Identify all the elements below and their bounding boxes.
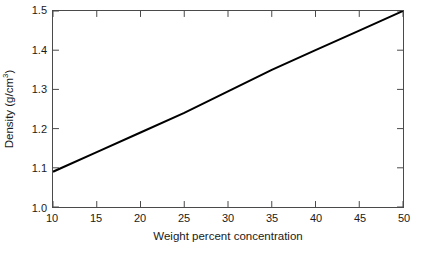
plot-canvas — [53, 11, 403, 207]
data-series-line — [53, 11, 403, 172]
y-tick-label: 1.1 — [32, 163, 47, 174]
x-tick-label: 30 — [222, 213, 234, 224]
x-tick-label: 40 — [310, 213, 322, 224]
y-tick-label: 1.5 — [32, 5, 47, 16]
x-tick-label: 50 — [398, 213, 410, 224]
x-tick-label: 10 — [46, 213, 58, 224]
plot-area — [52, 10, 404, 208]
y-axis-title-container: Density (g/cm3) — [0, 10, 18, 208]
y-tick-label: 1.3 — [32, 84, 47, 95]
x-tick-label: 25 — [178, 213, 190, 224]
x-tick-label: 15 — [90, 213, 102, 224]
tick-marks-group — [53, 11, 403, 207]
chart-figure: Density (g/cm3) 1.01.11.21.31.41.5 10152… — [0, 0, 427, 255]
x-tick-label: 20 — [134, 213, 146, 224]
x-axis-title: Weight percent concentration — [52, 230, 404, 242]
y-tick-label: 1.2 — [32, 123, 47, 134]
y-tick-label: 1.4 — [32, 44, 47, 55]
y-axis-title-tail: ) — [3, 70, 15, 74]
y-axis-title-superscript: 3 — [1, 74, 10, 78]
x-tick-label: 35 — [266, 213, 278, 224]
y-axis-title-text: Density (g/cm — [3, 78, 15, 148]
y-tick-label: 1.0 — [32, 203, 47, 214]
y-axis-title: Density (g/cm3) — [3, 70, 15, 149]
x-tick-label: 45 — [354, 213, 366, 224]
